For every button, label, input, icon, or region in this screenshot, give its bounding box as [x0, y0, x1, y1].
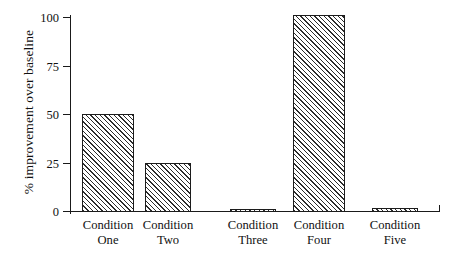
y-tick-label: 100 [40, 12, 59, 25]
category-label-line2: One [83, 233, 133, 248]
y-tick-label: 25 [47, 157, 60, 170]
category-label-line1: Condition [370, 218, 420, 232]
y-axis-line [70, 15, 71, 214]
x-axis-category-label: ConditionFive [370, 218, 420, 247]
y-tick-label: 75 [47, 60, 60, 73]
y-tick-label: 50 [47, 109, 60, 122]
category-label-line2: Five [370, 233, 420, 248]
category-label-line2: Three [228, 233, 278, 248]
bar [372, 208, 418, 212]
category-label-line2: Two [143, 233, 193, 248]
category-label-line1: Condition [294, 218, 344, 232]
category-label-line1: Condition [83, 218, 133, 232]
bar-chart: % improvement over baseline 0255075100 C… [0, 0, 459, 256]
y-tick-0: 0 [63, 211, 70, 212]
x-axis-end-tick [439, 205, 440, 212]
bar [293, 15, 345, 212]
category-label-line2: Four [294, 233, 344, 248]
y-tick-label: 0 [53, 206, 59, 219]
category-label-line1: Condition [143, 218, 193, 232]
y-tick-25: 25 [63, 163, 70, 164]
x-axis-category-label: ConditionThree [228, 218, 278, 247]
y-tick-50: 50 [63, 114, 70, 115]
bar [145, 163, 191, 212]
y-tick-75: 75 [63, 66, 70, 67]
x-axis-category-label: ConditionOne [83, 218, 133, 247]
bar [230, 209, 276, 212]
y-axis-label: % improvement over baseline [21, 17, 37, 207]
bar [82, 114, 134, 212]
x-axis-category-label: ConditionTwo [143, 218, 193, 247]
y-tick-100: 100 [63, 17, 70, 18]
x-axis-category-label: ConditionFour [294, 218, 344, 247]
plot-area: 0255075100 ConditionOneConditionTwoCondi… [70, 18, 440, 212]
category-label-line1: Condition [228, 218, 278, 232]
